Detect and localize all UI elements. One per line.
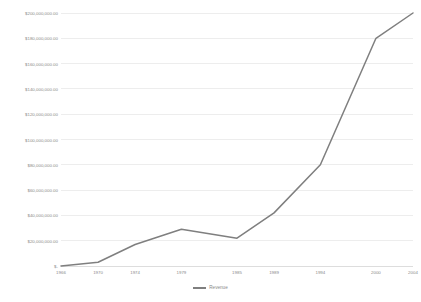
y-axis-tick-label: $40,000,000.00 <box>27 213 58 218</box>
legend-label: Revenue <box>209 285 227 291</box>
y-axis-tick-label: $140,000,000.00 <box>25 86 58 91</box>
x-axis-tick-label: 2000 <box>371 270 381 276</box>
y-axis-tick-label: $20,000,000.00 <box>27 238 58 243</box>
y-axis-tick-label: $180,000,000.00 <box>25 36 58 41</box>
x-axis-tick-label: 1994 <box>315 270 325 276</box>
legend-line-swatch <box>193 287 206 289</box>
y-axis-tick-labels: $-$20,000,000.00$40,000,000.00$60,000,00… <box>0 0 58 302</box>
chart-plot-area <box>0 0 421 302</box>
y-axis-tick-label: $120,000,000.00 <box>25 112 58 117</box>
x-axis-tick-label: 1970 <box>93 270 103 276</box>
x-axis-tick-label: 1985 <box>232 270 242 276</box>
y-axis-tick-label: $160,000,000.00 <box>25 61 58 66</box>
y-axis-tick-label: $100,000,000.00 <box>25 137 58 142</box>
y-axis-tick-label: $80,000,000.00 <box>27 162 58 167</box>
y-axis-tick-label: $- <box>54 264 58 269</box>
x-axis-tick-label: 1989 <box>269 270 279 276</box>
x-axis-tick-label: 1974 <box>130 270 140 276</box>
y-axis-tick-label: $200,000,000.00 <box>25 11 58 16</box>
x-axis-tick-label: 1966 <box>56 270 66 276</box>
gridlines <box>61 13 413 266</box>
y-axis-tick-label: $60,000,000.00 <box>27 188 58 193</box>
x-axis-tick-label: 1979 <box>177 270 187 276</box>
x-axis-tick-label: 2004 <box>408 270 418 276</box>
revenue-line-chart: $-$20,000,000.00$40,000,000.00$60,000,00… <box>0 0 421 302</box>
chart-legend: Revenue <box>0 285 421 291</box>
